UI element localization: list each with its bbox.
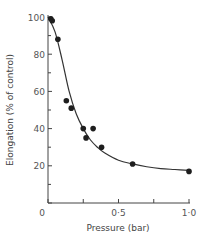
y-tick-label: 60 <box>34 87 46 97</box>
x-tick-label: 0 <box>39 208 45 218</box>
y-tick-label: 20 <box>34 161 46 171</box>
data-point <box>68 105 74 111</box>
data-point <box>130 161 136 167</box>
data-point <box>49 18 55 24</box>
chart: 20406080100 00·51·0 Pressure (bar) Elong… <box>0 0 208 245</box>
fitted-curve <box>48 17 189 170</box>
y-axis: 20406080100 <box>28 13 52 204</box>
data-point <box>99 144 105 150</box>
y-axis-label: Elongation (% of control) <box>5 54 15 166</box>
y-tick-label: 40 <box>34 124 46 134</box>
y-tick-label: 100 <box>28 13 45 23</box>
x-axis: 00·51·0 <box>39 199 196 218</box>
y-tick-label: 80 <box>34 50 46 60</box>
data-point <box>83 135 89 141</box>
x-tick-label: 1·0 <box>182 208 197 218</box>
data-point <box>80 126 86 132</box>
data-point <box>55 37 61 43</box>
data-point <box>90 126 96 132</box>
data-point <box>64 98 70 104</box>
x-tick-label: 0·5 <box>111 208 125 218</box>
x-axis-label: Pressure (bar) <box>86 223 149 233</box>
data-point <box>186 169 192 175</box>
